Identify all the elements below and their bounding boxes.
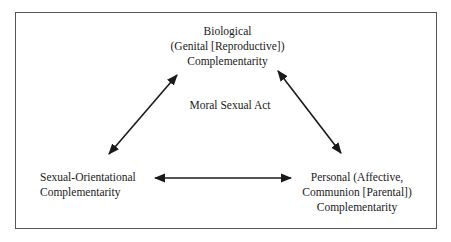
node-biological-line-2: (Genital [Reproductive])	[150, 39, 305, 54]
arrow-top-to-left	[109, 75, 177, 154]
arrow-top-to-right	[278, 71, 341, 153]
node-personal-line-3: Complementarity	[292, 200, 422, 215]
node-sexual-orientational-line-1: Sexual-Orientational	[40, 170, 155, 185]
node-sexual-orientational-line-2: Complementarity	[40, 185, 155, 200]
node-biological-line-3: Complementarity	[150, 54, 305, 69]
node-biological: Biological (Genital [Reproductive]) Comp…	[150, 24, 305, 69]
node-biological-line-1: Biological	[150, 24, 305, 39]
center-label-text: Moral Sexual Act	[175, 98, 285, 113]
center-label: Moral Sexual Act	[175, 98, 285, 113]
node-personal: Personal (Affective, Communion [Parental…	[292, 170, 422, 215]
node-personal-line-1: Personal (Affective,	[292, 170, 422, 185]
node-personal-line-2: Communion [Parental])	[292, 185, 422, 200]
node-sexual-orientational: Sexual-Orientational Complementarity	[40, 170, 155, 200]
